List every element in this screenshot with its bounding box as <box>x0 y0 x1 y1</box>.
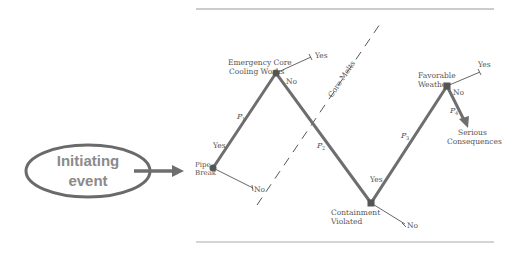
pipe-break-no: No <box>254 185 266 194</box>
tick <box>309 54 312 60</box>
svg-text:4: 4 <box>455 110 458 116</box>
weather-yes: Yes <box>477 60 491 69</box>
svg-text:3: 3 <box>406 135 409 141</box>
initiating-event-label-1: Initiating <box>57 152 120 169</box>
outcome-label-1: Serious <box>458 128 487 137</box>
tick <box>478 69 481 75</box>
pipe-break-label-2: Break <box>195 169 217 177</box>
initiating-event-label-2: event <box>68 172 107 189</box>
eccw-no: No <box>286 77 298 86</box>
core-melts-label: Core Melts <box>326 59 357 99</box>
p1-label: P 1 <box>236 112 245 122</box>
containment-no: No <box>407 221 419 230</box>
outcome-label-2: Consequences <box>447 137 502 146</box>
weather-label-1: Favorable <box>418 71 456 80</box>
p3-label: P 3 <box>400 131 409 141</box>
eccw-yes: Yes <box>314 51 328 60</box>
svg-text:1: 1 <box>242 116 245 122</box>
weather-no: No <box>453 88 465 97</box>
pipe-break-no-branch <box>213 168 253 188</box>
tick <box>252 185 253 191</box>
containment-yes: Yes <box>369 175 383 184</box>
containment-label-1: Containment <box>331 208 380 217</box>
weather-label-2: Weather <box>418 80 450 89</box>
p4-arrowhead-icon <box>459 116 469 128</box>
pipe-break-yes: Yes <box>212 141 226 150</box>
event-tree-diagram: Initiating event Core Melts Pipe Break Y… <box>0 0 514 255</box>
node-containment <box>368 200 375 207</box>
containment-label-2: Violated <box>330 217 363 226</box>
svg-text:2: 2 <box>322 145 325 151</box>
pipe-break-label-1: Pipe <box>195 161 211 169</box>
eccw-label-2: Cooling Works <box>229 67 284 76</box>
p2-label: P 2 <box>316 141 325 151</box>
initiating-event: Initiating event <box>26 145 150 197</box>
eccw-label-1: Emergency Core <box>228 58 292 67</box>
